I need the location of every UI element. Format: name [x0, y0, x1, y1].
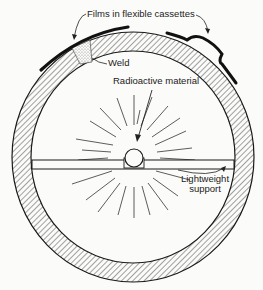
- support-label: Lightweight support: [172, 174, 238, 194]
- pipe-cross-section: [0, 0, 263, 290]
- source-label: Radioactive material: [113, 76, 199, 86]
- support-label-line2: support: [172, 184, 238, 194]
- pipe-wall: [0, 0, 263, 290]
- diagram-canvas: Films in flexible cassettes Weld Radioac…: [0, 0, 263, 290]
- weld-label: Weld: [108, 58, 129, 68]
- films-label: Films in flexible cassettes: [87, 9, 195, 19]
- radioactive-source: [125, 149, 143, 167]
